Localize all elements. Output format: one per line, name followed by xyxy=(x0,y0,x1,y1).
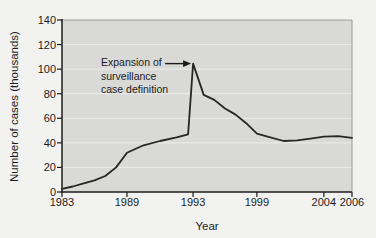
annotation-line-2: surveillance xyxy=(101,70,168,84)
y-tick-label: 20 xyxy=(24,161,56,173)
annotation-line-1: Expansion of xyxy=(101,56,168,70)
annotation-line-3: case definition xyxy=(101,83,168,97)
aids-cases-line-chart-figure: Number of cases (thousands) Year Expansi… xyxy=(0,0,376,238)
y-tick-label: 120 xyxy=(24,39,56,51)
x-tick-label: 1993 xyxy=(176,196,210,208)
y-tick-label: 80 xyxy=(24,88,56,100)
x-tick-label: 1989 xyxy=(110,196,144,208)
y-tick-label: 100 xyxy=(24,63,56,75)
annotation-expansion-of-surveillance: Expansion of surveillance case definitio… xyxy=(101,56,168,97)
y-axis-title: Number of cases (thousands) xyxy=(8,16,23,198)
y-tick-label: 40 xyxy=(24,137,56,149)
y-tick-label: 60 xyxy=(24,112,56,124)
x-axis-title: Year xyxy=(62,220,352,232)
x-tick-label: 1983 xyxy=(45,196,79,208)
x-tick-label: 1999 xyxy=(240,196,274,208)
y-tick-label: 140 xyxy=(24,14,56,26)
x-tick-label: 2006 xyxy=(335,196,369,208)
